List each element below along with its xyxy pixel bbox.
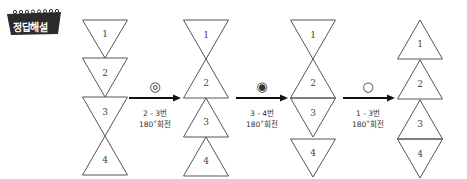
step-caption: 1 - 3번180˚회전 xyxy=(338,108,398,130)
piece-number: 3 xyxy=(310,108,316,118)
piece-number: 3 xyxy=(203,117,209,127)
piece-number: 2 xyxy=(417,79,423,89)
piece-number: 1 xyxy=(417,39,423,49)
empty-circle-icon: ○ xyxy=(362,79,373,94)
piece-number: 3 xyxy=(417,119,423,129)
caption-pieces: 2 - 3번 xyxy=(125,108,185,119)
step-caption: 2 - 3번180˚회전 xyxy=(125,108,185,130)
triangle-columns xyxy=(0,0,467,179)
puzzle-diagram: 정답해설 1234123412341234◎2 - 3번180˚회전◉3 - 4… xyxy=(0,0,467,179)
caption-pieces: 3 - 4번 xyxy=(232,108,292,119)
caption-pieces: 1 - 3번 xyxy=(338,108,398,119)
piece-number: 1 xyxy=(203,30,209,40)
double-circle-icon: ◎ xyxy=(149,79,160,94)
caption-rotation: 180˚회전 xyxy=(125,119,185,130)
piece-number: 4 xyxy=(417,149,423,159)
piece-number: 2 xyxy=(310,78,316,88)
piece-number: 4 xyxy=(102,155,108,165)
piece-number: 2 xyxy=(102,68,108,78)
piece-number: 2 xyxy=(203,78,209,88)
arrow-head-icon xyxy=(280,95,288,102)
arrow-head-icon xyxy=(387,95,395,102)
piece-number: 4 xyxy=(203,156,209,166)
filled-circle-icon: ◉ xyxy=(256,79,267,94)
piece-number: 1 xyxy=(102,29,108,39)
piece-number: 4 xyxy=(310,148,316,158)
arrow-head-icon xyxy=(173,95,181,102)
column-1 xyxy=(83,20,128,175)
caption-rotation: 180˚회전 xyxy=(232,119,292,130)
piece-number: 1 xyxy=(310,30,316,40)
piece-number: 3 xyxy=(102,107,108,117)
caption-rotation: 180˚회전 xyxy=(338,119,398,130)
step-caption: 3 - 4번180˚회전 xyxy=(232,108,292,130)
column-2 xyxy=(184,20,229,176)
